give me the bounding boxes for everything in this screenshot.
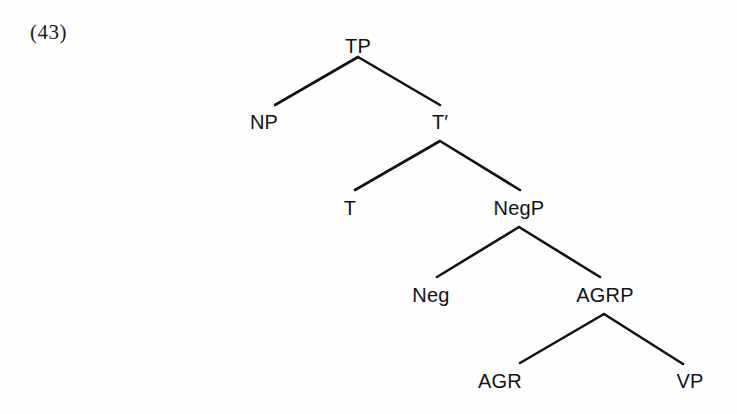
tree-node-agrp: AGRP — [576, 285, 633, 305]
edge-agrp-agr — [520, 314, 604, 363]
diagram-page: (43) TP NP T′ T NegP Neg AGRP AGR VP — [0, 0, 737, 414]
tree-node-agr: AGR — [478, 371, 522, 391]
tree-node-negp: NegP — [494, 198, 545, 218]
tree-node-t: T — [344, 198, 356, 218]
edge-negp-neg — [437, 227, 519, 277]
edge-tbar-negp — [440, 141, 520, 190]
tree-node-tp: TP — [345, 36, 371, 56]
tree-branch-lines — [0, 0, 737, 414]
tree-node-np: NP — [250, 112, 278, 132]
edge-tbar-t — [355, 141, 440, 190]
edge-group — [275, 57, 683, 364]
edge-agrp-vp — [604, 314, 683, 364]
tree-node-tbar: T′ — [432, 112, 448, 132]
edge-tp-np — [275, 57, 358, 105]
prime-mark: ′ — [444, 111, 448, 133]
edge-tp-tbar — [358, 57, 440, 105]
edge-negp-agrp — [519, 227, 600, 277]
tree-node-vp: VP — [676, 371, 703, 391]
tree-node-neg: Neg — [412, 285, 449, 305]
